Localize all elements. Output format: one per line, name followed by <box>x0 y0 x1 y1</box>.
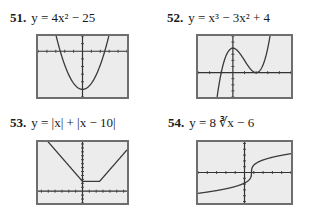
graph-54 <box>196 140 293 205</box>
problem-51-label: 51.y = 4x² − 25 <box>10 11 95 25</box>
graph-53 <box>36 140 129 205</box>
problem-number: 51. <box>10 10 26 25</box>
problem-52-label: 52.y = x³ − 3x² + 4 <box>167 11 270 25</box>
graph-52-plot <box>198 36 291 97</box>
problem-equation: y = |x| + |x − 10| <box>31 115 115 130</box>
problem-number: 53. <box>10 115 26 130</box>
problem-53-label: 53.y = |x| + |x − 10| <box>10 116 116 130</box>
problem-54-label: 54.y = 8 ∛x − 6 <box>168 116 254 130</box>
graph-51 <box>36 34 129 99</box>
problem-number: 52. <box>167 10 183 25</box>
problem-number: 54. <box>168 115 184 130</box>
problem-equation: y = 8 ∛x − 6 <box>189 115 254 130</box>
graph-51-plot <box>38 36 127 97</box>
problem-equation: y = 4x² − 25 <box>31 10 95 25</box>
problem-equation: y = x³ − 3x² + 4 <box>188 10 270 25</box>
graph-52 <box>196 34 293 99</box>
graph-54-plot <box>198 142 291 203</box>
function-curve <box>198 36 291 97</box>
graph-53-plot <box>38 142 127 203</box>
